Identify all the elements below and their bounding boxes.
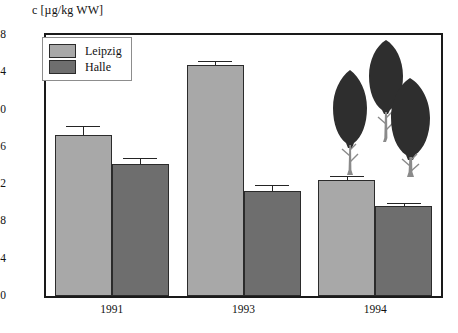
error-bar-cap [387,203,421,204]
y-axis-tick-label: 2.4 [0,67,6,79]
error-bar-cap [66,126,100,127]
y-axis-tick-label: 2.8 [0,29,6,41]
legend-label-halle: Halle [85,61,111,73]
y-axis-tick-label: 0.4 [0,253,6,265]
legend-swatch-halle [49,60,76,74]
error-bar-cap [255,185,289,186]
error-bar-cap [123,158,157,159]
bar-halle-1994 [375,206,432,296]
x-axis-tick-label: 1993 [232,303,255,315]
bar-leipzig-1994 [318,180,375,296]
chart-legend: LeipzigHalle [42,37,132,81]
legend-label-leipzig: Leipzig [85,45,122,57]
y-axis-title: c [µg/kg WW] [32,3,103,18]
error-bar-stem [83,126,84,134]
bar-leipzig-1991 [55,135,112,296]
three-trees-illustration [324,38,438,178]
x-axis-tick-label: 1994 [364,303,387,315]
y-axis-tick-label: 1.2 [0,178,6,190]
y-axis-tick-label: 2.0 [0,104,6,116]
bar-leipzig-1993 [187,65,244,296]
y-axis-tick-label: 0.8 [0,216,6,228]
legend-swatch-leipzig [49,44,76,58]
legend-item-halle: Halle [49,60,122,74]
bar-chart: c [µg/kg WW] 0.00.40.81.21.62.02.42.8 19… [0,0,458,333]
legend-item-leipzig: Leipzig [49,44,122,58]
error-bar-cap [198,61,232,62]
x-axis-tick-label: 1991 [100,303,123,315]
y-axis-tick-label: 0.0 [0,290,6,302]
bar-halle-1993 [244,191,301,296]
y-axis-tick-label: 1.6 [0,141,6,153]
bar-halle-1991 [112,164,169,296]
